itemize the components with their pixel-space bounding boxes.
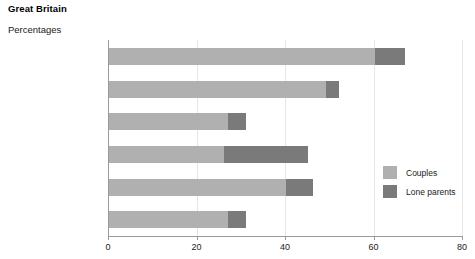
plot-area: 020406080Bangladeshi/PakistaniIndianWhit… <box>108 40 462 236</box>
x-axis-tick-label: 80 <box>447 242 475 252</box>
chart-title: Great Britain <box>8 3 67 14</box>
bar-segment-couples <box>109 113 228 130</box>
chart-container: Great Britain Percentages 020406080Bangl… <box>0 0 475 259</box>
x-axis-tick-label: 60 <box>359 242 389 252</box>
bar-segment-lone-parents <box>326 81 339 98</box>
bar-segment-lone-parents <box>286 179 313 196</box>
x-axis-tick <box>374 236 375 240</box>
chart-subtitle: Percentages <box>8 24 61 35</box>
x-axis-tick-label: 40 <box>270 242 300 252</box>
gridline <box>285 40 286 236</box>
legend-item-couples: Couples <box>383 163 475 182</box>
x-axis-tick <box>108 236 109 240</box>
legend-item-lone-parents: Lone parents <box>383 182 475 201</box>
y-axis-line <box>108 40 109 236</box>
legend-swatch-lone-parents <box>383 185 397 198</box>
bar-segment-couples <box>109 48 375 65</box>
x-axis-tick-label: 20 <box>182 242 212 252</box>
bar-segment-couples <box>109 179 286 196</box>
bar-segment-lone-parents <box>228 113 246 130</box>
x-axis-tick <box>285 236 286 240</box>
gridline <box>197 40 198 236</box>
legend-label-couples: Couples <box>406 168 437 178</box>
bar-segment-lone-parents <box>375 48 406 65</box>
legend-label-lone-parents: Lone parents <box>406 187 456 197</box>
gridline <box>374 40 375 236</box>
bar-segment-couples <box>109 81 326 98</box>
x-axis-tick <box>462 236 463 240</box>
bar-segment-couples <box>109 211 228 228</box>
gridline <box>462 40 463 236</box>
x-axis-tick <box>197 236 198 240</box>
bar-segment-lone-parents <box>228 211 246 228</box>
chart-legend: Couples Lone parents <box>383 163 475 201</box>
x-axis-tick-label: 0 <box>93 242 123 252</box>
bar-segment-couples <box>109 146 224 163</box>
bar-segment-lone-parents <box>224 146 308 163</box>
legend-swatch-couples <box>383 166 397 179</box>
